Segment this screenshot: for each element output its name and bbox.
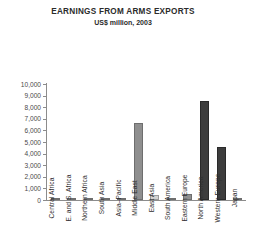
y-tick-label: 5,000 [0, 139, 41, 146]
y-tick-label: 2,000 [0, 173, 41, 180]
y-tick-label: 3,000 [0, 162, 41, 169]
bar-slot: South America [163, 84, 180, 200]
bar-category-label: East Asia [148, 184, 155, 212]
bar-category-label: North America [197, 176, 204, 219]
bar-category-label: Northern Africa [81, 175, 88, 220]
bar-slot: Northern Africa [80, 84, 97, 200]
y-tick-mark [43, 200, 47, 201]
bar-category-label: Middle East [131, 180, 138, 216]
chart-subtitle: US$ million, 2003 [0, 18, 246, 28]
bar-slot: Eastern Europe [180, 84, 197, 200]
bar-category-label: Eastern Europe [181, 174, 188, 221]
bar-slot: Western Europe [213, 84, 230, 200]
y-tick-label: 7,000 [0, 115, 41, 122]
bar-category-label: Central Africa [48, 178, 55, 219]
bar-category-label: Japan [231, 189, 238, 207]
bar-category-label: Asia–Pacific [115, 179, 122, 216]
y-tick-label: 8,000 [0, 104, 41, 111]
bar-category-label: South America [164, 176, 171, 220]
bar-slot: North America [196, 84, 213, 200]
bar-series: Central AfricaE. and S. AfricaNorthern A… [47, 84, 246, 200]
bar-slot: Japan [229, 84, 246, 200]
bar-slot: E. and S. Africa [64, 84, 81, 200]
chart-header: EARNINGS FROM ARMS EXPORTS US$ million, … [0, 7, 246, 28]
bar-category-label: Western Europe [214, 174, 221, 223]
y-tick-label: 0 [0, 197, 41, 204]
bar-slot: Central Africa [47, 84, 64, 200]
bar-category-label: E. and S. Africa [65, 174, 72, 221]
y-tick-label: 9,000 [0, 92, 41, 99]
bar-slot: East Asia [146, 84, 163, 200]
bar-category-label: South Asia [98, 182, 105, 215]
bar-slot: Middle East [130, 84, 147, 200]
chart-figure: EARNINGS FROM ARMS EXPORTS US$ million, … [0, 0, 253, 226]
bar-slot: Asia–Pacific [113, 84, 130, 200]
y-tick-label: 10,000 [0, 81, 41, 88]
y-tick-label: 1,000 [0, 185, 41, 192]
y-tick-label: 6,000 [0, 127, 41, 134]
chart-title: EARNINGS FROM ARMS EXPORTS [0, 7, 246, 17]
y-tick-label: 4,000 [0, 150, 41, 157]
bar-slot: South Asia [97, 84, 114, 200]
